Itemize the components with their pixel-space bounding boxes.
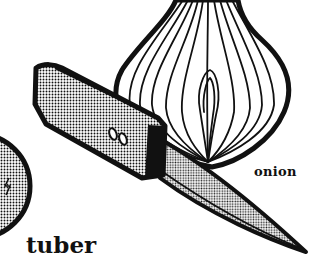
tuber-label: tuber [26, 233, 96, 256]
onion-label: onion [254, 165, 297, 178]
tuber-drawing [0, 134, 30, 238]
